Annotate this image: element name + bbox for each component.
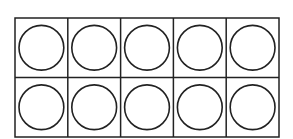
- ten-frame: [14, 17, 280, 138]
- ten-frame-grid: [14, 17, 280, 138]
